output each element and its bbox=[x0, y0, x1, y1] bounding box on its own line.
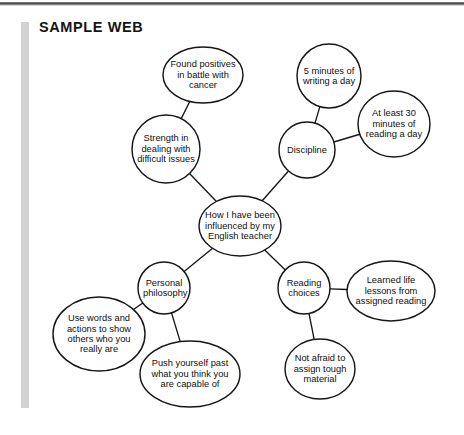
web-node-discipline[interactable] bbox=[279, 122, 335, 178]
web-node-not-afraid-tough[interactable] bbox=[285, 339, 355, 399]
web-node-center[interactable] bbox=[199, 196, 281, 256]
web-link bbox=[134, 303, 143, 310]
web-node-personal-philosophy[interactable] bbox=[138, 262, 190, 314]
web-link bbox=[309, 314, 314, 340]
web-link bbox=[334, 134, 360, 142]
web-link bbox=[172, 313, 181, 342]
web-node-push-yourself[interactable] bbox=[140, 341, 240, 407]
scanned-page: SAMPLE WEB How I have been influenced by… bbox=[0, 0, 464, 435]
web-node-use-words-actions[interactable] bbox=[53, 297, 145, 371]
web-node-found-positives[interactable] bbox=[163, 47, 243, 103]
web-link bbox=[262, 171, 288, 201]
web-link bbox=[184, 248, 212, 271]
web-link bbox=[330, 289, 347, 290]
web-link bbox=[181, 101, 190, 118]
web-node-five-minutes-writing[interactable] bbox=[297, 44, 361, 108]
web-node-strength[interactable] bbox=[132, 115, 200, 183]
web-node-learned-life-lessons[interactable] bbox=[347, 261, 435, 321]
web-link bbox=[190, 174, 217, 202]
web-link bbox=[315, 107, 320, 123]
nodes-layer bbox=[53, 44, 435, 407]
web-link bbox=[265, 250, 286, 270]
web-node-thirty-minutes-reading[interactable] bbox=[358, 91, 430, 157]
idea-web-canvas bbox=[0, 0, 464, 435]
web-node-reading-choices[interactable] bbox=[278, 262, 330, 314]
